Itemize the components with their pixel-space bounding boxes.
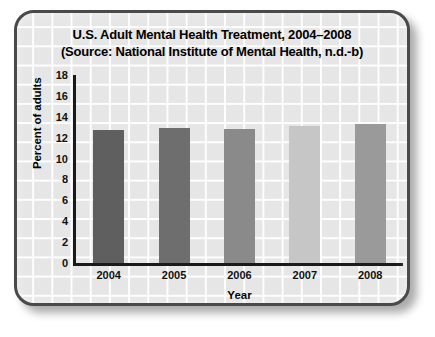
bar-slot	[208, 75, 270, 263]
x-axis-line	[73, 263, 403, 266]
bar-slot	[274, 75, 336, 263]
y-tick-4: 4	[62, 215, 68, 227]
bar-series	[76, 75, 403, 263]
x-tick-2004: 2004	[78, 269, 140, 281]
y-tick-14: 14	[56, 111, 68, 123]
x-axis-label: Year	[76, 289, 403, 301]
y-axis-label: Percent of adults	[31, 77, 43, 169]
x-tick-2005: 2005	[143, 269, 205, 281]
y-tick-2: 2	[62, 236, 68, 248]
y-tick-8: 8	[62, 173, 68, 185]
bar-2007[interactable]	[289, 126, 320, 263]
bar-2004[interactable]	[93, 130, 124, 263]
x-axis-ticks: 20042005200620072008	[76, 269, 403, 281]
chart-card: U.S. Adult Mental Health Treatment, 2004…	[14, 10, 410, 306]
bar-2008[interactable]	[355, 124, 386, 263]
x-tick-2008: 2008	[339, 269, 401, 281]
plot-area: 18 16 14 12 10 8 6 4 2 0 200420052006200…	[73, 75, 403, 263]
y-tick-16: 16	[56, 90, 68, 102]
y-tick-12: 12	[56, 132, 68, 144]
y-tick-18: 18	[56, 69, 68, 81]
bar-slot	[339, 75, 401, 263]
bar-slot	[143, 75, 205, 263]
bar-slot	[78, 75, 140, 263]
chart-title-line-1: U.S. Adult Mental Health Treatment, 2004…	[17, 26, 407, 43]
chart-title: U.S. Adult Mental Health Treatment, 2004…	[17, 26, 407, 60]
bar-2006[interactable]	[224, 129, 255, 263]
y-tick-0: 0	[62, 257, 68, 269]
x-tick-2006: 2006	[208, 269, 270, 281]
chart-figure: U.S. Adult Mental Health Treatment, 2004…	[0, 0, 435, 337]
y-tick-10: 10	[56, 153, 68, 165]
chart-title-line-2: (Source: National Institute of Mental He…	[17, 43, 407, 60]
bar-2005[interactable]	[159, 128, 190, 263]
y-tick-6: 6	[62, 194, 68, 206]
x-tick-2007: 2007	[274, 269, 336, 281]
